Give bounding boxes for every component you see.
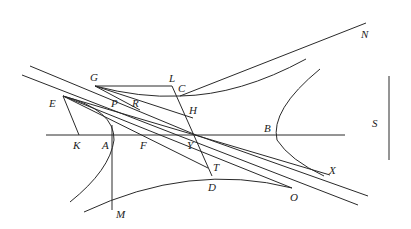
diagram-canvas: N G L C E P R H S B K A F Y T X D O M: [0, 0, 411, 229]
label-F: F: [139, 139, 147, 151]
label-H: H: [188, 104, 198, 116]
curve-G-C: [95, 86, 180, 96]
label-T: T: [213, 161, 220, 173]
label-S: S: [372, 117, 378, 129]
curve-C-upper-right: [180, 59, 306, 96]
label-L: L: [168, 72, 175, 84]
curve-right-branch: [276, 69, 324, 176]
label-M: M: [115, 208, 126, 220]
label-D: D: [207, 181, 216, 193]
label-A: A: [101, 139, 109, 151]
line-C-N: [180, 23, 366, 96]
label-B: B: [264, 122, 271, 134]
label-Y: Y: [187, 139, 195, 151]
label-E: E: [48, 97, 56, 109]
line-L-D: [172, 86, 212, 176]
line-E-O: [63, 96, 292, 188]
label-O: O: [290, 191, 298, 203]
conic-diagram: N G L C E P R H S B K A F Y T X D O M: [0, 0, 411, 229]
label-N: N: [360, 28, 369, 40]
label-P: P: [110, 97, 118, 109]
label-R: R: [131, 97, 139, 109]
label-G: G: [90, 71, 98, 83]
label-K: K: [72, 139, 81, 151]
label-C: C: [178, 82, 186, 94]
label-X: X: [328, 164, 337, 176]
line-Y-X: [196, 135, 368, 196]
